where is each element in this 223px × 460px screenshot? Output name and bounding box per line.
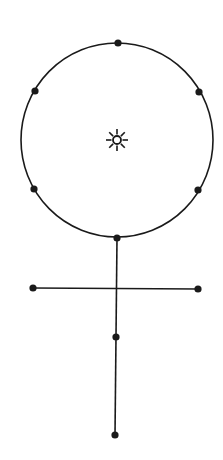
- stem-point-0: [29, 284, 36, 291]
- circle-point-2: [195, 88, 202, 95]
- diagram-canvas: [0, 0, 223, 460]
- stem-point-1: [194, 285, 201, 292]
- circle-point-4: [194, 186, 201, 193]
- circle-point-0: [114, 39, 121, 46]
- stem-point-3: [111, 431, 118, 438]
- circle-point-3: [30, 185, 37, 192]
- sun-icon: [106, 129, 128, 151]
- stem-point-2: [112, 333, 119, 340]
- venus-diagram: [0, 0, 223, 460]
- circle-point-5: [113, 234, 120, 241]
- circle-point-1: [31, 87, 38, 94]
- horizontal-crossbar: [33, 288, 198, 289]
